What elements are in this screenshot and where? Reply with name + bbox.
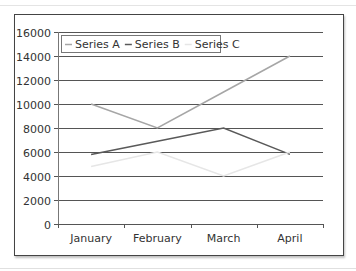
series-line-series-a [91,56,290,128]
y-tick-label: 6000 [23,147,51,160]
legend-label: Series C [195,38,240,51]
y-tick-label: 12000 [16,75,51,88]
series-lines [91,56,290,176]
legend-label: Series A [75,38,120,51]
gridlines [54,33,323,225]
y-tick-label: 14000 [16,51,51,64]
x-tick-label: March [207,232,241,245]
y-tick-label: 8000 [23,123,51,136]
series-line-series-b [91,128,290,154]
y-tick-label: 4000 [23,171,51,184]
x-tick-label: April [277,232,302,245]
series-line-series-c [91,152,290,176]
legend: Series ASeries BSeries C [62,36,241,53]
y-tick-label: 16000 [16,27,51,40]
x-tick-label: February [133,232,182,245]
x-axis: JanuaryFebruaryMarchApril [59,224,324,245]
bottom-divider [0,268,356,269]
y-axis: 0200040006000800010000120001400016000 [16,27,59,232]
y-tick-label: 0 [44,219,51,232]
line-chart: 0200040006000800010000120001400016000 Ja… [0,0,356,271]
x-tick-label: January [69,232,112,245]
legend-label: Series B [135,38,180,51]
y-tick-label: 2000 [23,195,51,208]
y-tick-label: 10000 [16,99,51,112]
